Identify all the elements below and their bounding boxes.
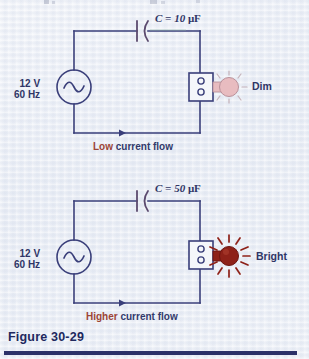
current-arrow-bottom — [119, 300, 126, 307]
source-frequency-bottom: 60 Hz — [14, 259, 40, 270]
source-label-bottom: 12 V 60 Hz — [14, 248, 40, 270]
capacitor-label-bottom: C = 50 μF — [155, 182, 201, 194]
lamp-bulb-bright — [210, 235, 250, 277]
bottom-rule — [4, 351, 297, 355]
capacitor-value-bottom: 50 — [174, 182, 185, 194]
figure-caption: Figure 30-29 — [8, 330, 84, 344]
flow-rest-bottom: current flow — [120, 311, 177, 322]
source-voltage-bottom: 12 V — [20, 248, 41, 259]
lamp-label-bright: Bright — [256, 251, 287, 263]
ac-source-symbol-bottom — [57, 240, 91, 274]
capacitor-symbol-text-bottom: C — [155, 182, 162, 194]
flow-emphasis-bottom: Higher — [86, 311, 118, 322]
flow-label-bottom: Higher current flow — [86, 311, 178, 322]
bottom-circuit-drawing — [0, 0, 309, 359]
capacitor-symbol-bottom — [137, 191, 148, 211]
capacitor-equals-bottom: = — [165, 182, 171, 194]
capacitor-unit-bottom: μF — [188, 182, 201, 194]
figure-page: 12 V 60 Hz C = 10 μF Dim Low current flo… — [0, 0, 309, 359]
